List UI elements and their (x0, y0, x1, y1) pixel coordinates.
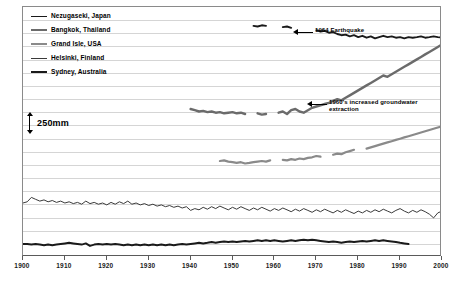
legend-item-bangkok[interactable]: Bangkok, Thailand (31, 23, 151, 37)
series-path (367, 126, 441, 148)
x-axis-tick-label: 1970 (300, 262, 330, 270)
x-axis-tick-label: 1980 (342, 262, 372, 270)
legend-label: Bangkok, Thailand (51, 26, 111, 34)
x-axis-tick (106, 256, 107, 260)
legend: Nezugaseki, Japan Bangkok, Thailand Gran… (31, 9, 151, 79)
x-axis-tick-label: 1990 (384, 262, 414, 270)
series-sydney (23, 240, 409, 246)
x-axis-tick (190, 256, 191, 260)
legend-swatch (31, 58, 47, 59)
legend-swatch (31, 16, 47, 17)
x-axis-tick (441, 256, 442, 260)
scale-bar: 250mm (25, 112, 69, 134)
series-path (220, 160, 270, 163)
annotation-earthquake: 1964 Earthquake (293, 27, 364, 36)
legend-item-grand-isle[interactable]: Grand Isle, USA (31, 37, 151, 51)
x-axis-tick (273, 256, 274, 260)
arrow-left-icon (307, 100, 327, 108)
x-axis-tick-label: 1960 (258, 262, 288, 270)
series-path (23, 240, 409, 246)
x-axis-tick (148, 256, 149, 260)
annotation-text: 1960's increased groundwater extraction (329, 99, 418, 113)
x-axis-tick-label: 1910 (49, 262, 79, 270)
series-path (333, 150, 354, 155)
annotation-groundwater: 1960's increased groundwater extraction (307, 99, 418, 113)
x-axis-tick (22, 256, 23, 260)
x-axis-tick-label: 2000 (426, 262, 456, 270)
series-path (283, 156, 321, 160)
legend-item-sydney[interactable]: Sydney, Australia (31, 65, 151, 79)
legend-item-nezugaseki[interactable]: Nezugaseki, Japan (31, 9, 151, 23)
x-axis-tick (399, 256, 400, 260)
series-path (283, 27, 291, 28)
x-axis-tick-label: 1930 (133, 262, 163, 270)
scale-bar-label: 250mm (37, 118, 69, 128)
series-path (191, 109, 246, 114)
legend-item-helsinki[interactable]: Helsinki, Finland (31, 51, 151, 65)
x-axis-tick (64, 256, 65, 260)
x-axis-tick-label: 1950 (217, 262, 247, 270)
series-helsinki (23, 197, 441, 218)
legend-swatch (31, 29, 47, 31)
legend-swatch (31, 43, 47, 45)
arrow-left-icon (293, 28, 313, 36)
series-grand-isle (220, 126, 441, 163)
legend-label: Nezugaseki, Japan (51, 12, 111, 20)
legend-label: Sydney, Australia (51, 68, 107, 76)
sea-level-chart: 1900191019201930194019501960197019801990… (0, 0, 457, 282)
series-path (254, 25, 267, 26)
x-axis-tick-label: 1920 (91, 262, 121, 270)
x-axis-tick-label: 1900 (7, 262, 37, 270)
series-path (258, 113, 266, 114)
legend-swatch (31, 71, 47, 73)
legend-label: Grand Isle, USA (51, 40, 102, 48)
x-axis-tick-label: 1940 (175, 262, 205, 270)
x-axis-tick (315, 256, 316, 260)
x-axis-tick (357, 256, 358, 260)
legend-label: Helsinki, Finland (51, 54, 104, 62)
annotation-text: 1964 Earthquake (315, 27, 364, 34)
x-axis-tick (232, 256, 233, 260)
double-arrow-vertical-icon (25, 112, 34, 134)
series-path (23, 197, 441, 218)
